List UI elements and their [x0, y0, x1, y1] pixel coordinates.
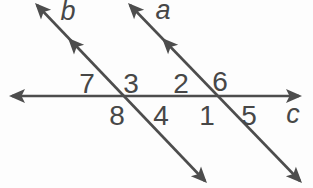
angle-label-5: 5 [241, 100, 257, 131]
angle-label-4: 4 [153, 100, 169, 131]
line-c-label: c [286, 99, 300, 129]
line-b-label: b [60, 0, 75, 26]
angle-label-7: 7 [79, 68, 95, 99]
angle-label-2: 2 [173, 68, 189, 99]
angle-label-1: 1 [199, 100, 215, 131]
angle-label-8: 8 [109, 100, 125, 131]
parallel-lines-transversal-figure: b a c 7 3 2 6 8 4 1 5 [0, 0, 313, 188]
angle-label-3: 3 [123, 68, 139, 99]
geometry-diagram: b a c 7 3 2 6 8 4 1 5 [0, 0, 313, 188]
angle-label-6: 6 [212, 66, 228, 97]
line-a-label: a [155, 0, 170, 25]
